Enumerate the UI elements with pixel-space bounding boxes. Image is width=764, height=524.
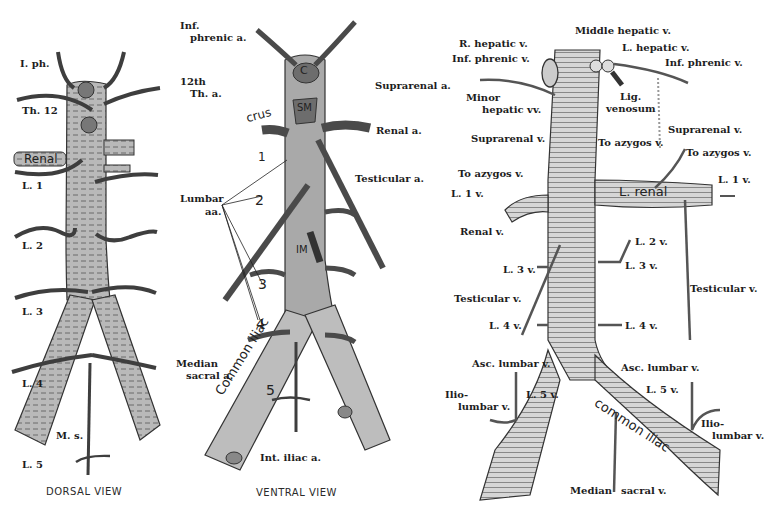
label-l4-v-left: L. 4 v. [489,320,522,331]
label-inf-phrenic-a-2: phrenic a. [190,32,247,43]
label-12th-th-a-2: Th. a. [190,88,222,99]
label-renal: Renal [24,152,57,166]
label-minor-hepatic-2: hepatic vv. [482,104,541,115]
label-to-azygos-v-right: To azygos v. [686,147,751,158]
label-l5-v-right: L. 5 v. [646,384,679,395]
label-lig-venosum-1: Lig. [620,91,641,102]
label-to-azygos-v-middle: To azygos v. [598,137,663,148]
label-12th-th-a-1: 12th [180,76,206,87]
label-renal-a: Renal a. [376,125,422,136]
label-int-iliac-a: Int. iliac a. [260,452,321,463]
label-l3-v-left: L. 3 v. [503,264,536,275]
label-l2: L. 2 [22,240,43,251]
caption-ventral-view: VENTRAL VIEW [256,487,337,498]
label-inferior-mesenteric: IM [296,244,308,255]
vena-cava [480,50,735,500]
label-r-hepatic-v: R. hepatic v. [459,38,528,49]
caption-dorsal-view: DORSAL VIEW [46,486,122,497]
label-minor-hepatic-1: Minor [466,92,500,103]
label-l1-v-left: L. 1 v. [451,188,484,199]
label-iliolumbar-v-left-1: Ilio- [445,389,468,400]
label-lumbar-1: 1 [258,150,266,164]
label-lumbar-5: 5 [266,382,275,398]
label-l1: L. 1 [22,180,43,191]
label-celiac: C [300,64,308,77]
label-middle-hepatic-v: Middle hepatic v. [575,25,671,36]
label-inf-phrenic-a-1: Inf. [180,20,199,31]
label-l-hepatic-v: L. hepatic v. [622,42,689,53]
label-suprarenal-v-left: Suprarenal v. [471,133,545,144]
label-lumbar-aa-1: Lumbar [180,193,224,204]
label-l4: L. 4 [22,378,43,389]
label-l5-v-left: L. 5 v. [526,389,559,400]
label-iliolumbar-v-left-2: lumbar v. [458,401,510,412]
label-iliolumbar-v-right-2: lumbar v. [712,430,764,441]
label-inf-phrenic-v-right: Inf. phrenic v. [665,57,743,68]
label-lig-venosum-2: venosum [606,103,656,114]
label-l-renal: L. renal [619,184,667,199]
label-lumbar-3: 3 [258,276,267,292]
label-suprarenal-a: Suprarenal a. [375,80,451,91]
label-l5: L. 5 [22,459,43,470]
label-asc-lumbar-v-left: Asc. lumbar v. [472,358,551,369]
label-suprarenal-v-right: Suprarenal v. [668,124,742,135]
label-lumbar-2: 2 [255,192,264,208]
label-median-sacral-a-2: sacral a. [186,370,233,381]
label-renal-v: Renal v. [460,226,504,237]
label-l3: L. 3 [22,306,43,317]
label-median-sacral-v-1: Median [570,485,612,496]
label-l2-v: L. 2 v. [635,236,668,247]
label-superior-mesenteric: SM [297,102,312,113]
label-testicular-a: Testicular a. [355,173,424,184]
label-inf-phrenic-v-left: Inf. phrenic v. [452,53,530,64]
label-iliolumbar-v-right-1: Ilio- [701,418,724,429]
label-l1-v-right: L. 1 v. [718,174,751,185]
label-asc-lumbar-v-right: Asc. lumbar v. [621,362,700,373]
label-median-sacral-v-2: sacral v. [621,485,667,496]
label-inf-phrenic: I. ph. [20,58,49,69]
label-testicular-v-left: Testicular v. [454,293,521,304]
label-median-sacral: M. s. [56,430,83,441]
label-l3-v-right: L. 3 v. [625,260,658,271]
label-median-sacral-a-1: Median [176,358,218,369]
label-lumbar-aa-2: aa. [205,206,221,217]
label-th12: Th. 12 [22,105,58,116]
label-to-azygos-v-left: To azygos v. [458,168,523,179]
label-testicular-v-right: Testicular v. [690,283,757,294]
label-l4-v-right: L. 4 v. [625,320,658,331]
